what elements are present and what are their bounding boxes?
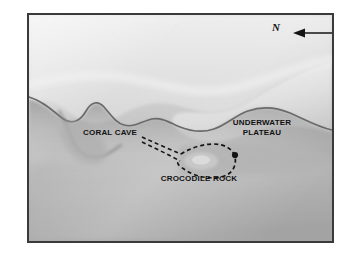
survey-point-marker xyxy=(232,152,238,158)
label-crocodile-rock: CROCODILE ROCK xyxy=(149,174,249,184)
north-arrow-head xyxy=(293,28,305,37)
crocodile-rock-outline xyxy=(178,144,236,178)
map-figure: UNDERWATER PLATEAU CORAL CAVE CROCODILE … xyxy=(27,13,334,243)
north-label: N xyxy=(272,22,280,33)
label-coral-cave: CORAL CAVE xyxy=(83,128,143,138)
label-underwater-plateau: UNDERWATER PLATEAU xyxy=(225,118,299,137)
